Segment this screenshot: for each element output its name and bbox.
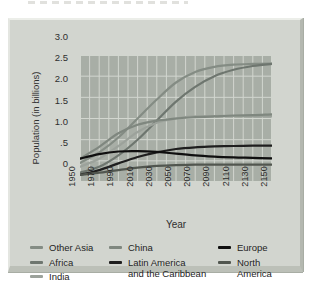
legend-swatch-africa xyxy=(30,261,43,264)
y-tick-label: 2.5 xyxy=(36,52,68,64)
x-tick-label: 2110 xyxy=(221,166,231,196)
legend-column: EuropeNorth America xyxy=(218,242,272,283)
y-tick-label: 1.0 xyxy=(36,116,68,128)
legend-label: Other Asia xyxy=(49,242,93,254)
x-tick-label: 2030 xyxy=(144,166,154,196)
y-tick-label: 1.5 xyxy=(36,95,68,107)
legend-swatch-north-america xyxy=(218,261,231,264)
legend-label: Europe xyxy=(237,242,268,254)
legend-column: ChinaLatin America and the Caribbean xyxy=(109,242,206,283)
legend-label: Latin America and the Caribbean xyxy=(128,257,206,280)
legend-swatch-latin-america-and-the-caribbean xyxy=(109,261,122,264)
y-tick-label: 0 xyxy=(36,158,68,170)
x-tick-label: 2150 xyxy=(259,166,269,196)
legend-swatch-other-asia xyxy=(30,246,43,249)
y-tick-label: 3.0 xyxy=(36,31,68,43)
x-tick-label: 1970 xyxy=(86,166,96,196)
legend-swatch-china xyxy=(109,246,122,249)
x-tick-label: 2090 xyxy=(201,166,211,196)
legend-label: India xyxy=(49,271,70,283)
plot-area xyxy=(80,55,272,182)
x-axis-title: Year xyxy=(80,219,272,230)
legend-label: China xyxy=(128,242,153,254)
legend-item-other-asia: Other Asia xyxy=(30,242,93,254)
x-tick-label: 2010 xyxy=(125,166,135,196)
plot-svg xyxy=(80,55,272,182)
legend-swatch-india xyxy=(30,275,43,278)
legend-item-north-america: North America xyxy=(218,257,272,280)
legend-swatch-europe xyxy=(218,246,231,249)
legend-item-africa: Africa xyxy=(30,257,93,269)
y-tick-label: .5 xyxy=(36,137,68,149)
x-tick-label: 2070 xyxy=(182,166,192,196)
cropped-caption-fragment xyxy=(28,1,188,4)
legend-item-china: China xyxy=(109,242,206,254)
x-tick-label: 2050 xyxy=(163,166,173,196)
legend-label: Africa xyxy=(49,257,73,269)
y-tick-label: 2.0 xyxy=(36,73,68,85)
legend-item-india: India xyxy=(30,271,93,283)
x-tick-label: 1990 xyxy=(105,166,115,196)
legend-column: Other AsiaAfricaIndia xyxy=(30,242,93,286)
chart-panel: Population (in billions) 0.51.01.52.02.5… xyxy=(8,18,303,272)
x-tick-label: 1950 xyxy=(67,166,77,196)
legend-label: North America xyxy=(237,257,272,280)
x-tick-label: 2130 xyxy=(240,166,250,196)
legend-item-latin-america-and-the-caribbean: Latin America and the Caribbean xyxy=(109,257,206,280)
figure-scan: Population (in billions) 0.51.01.52.02.5… xyxy=(0,0,311,286)
legend-item-europe: Europe xyxy=(218,242,272,254)
